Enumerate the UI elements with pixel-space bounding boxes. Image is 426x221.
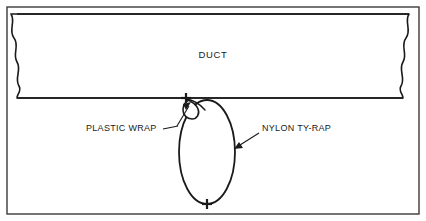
- plastic-wrap-label: PLASTIC WRAP: [86, 123, 157, 133]
- diagram-canvas: DUCT: [0, 0, 426, 221]
- duct-assembly: DUCT: [11, 14, 409, 98]
- duct-label: DUCT: [199, 49, 228, 60]
- technical-diagram-figure: DUCT: [0, 0, 426, 221]
- nylon-ty-rap-label: NYLON TY-RAP: [262, 123, 331, 133]
